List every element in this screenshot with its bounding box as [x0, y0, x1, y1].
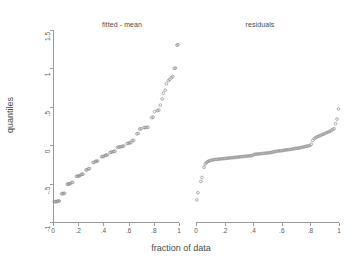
data-point: [196, 199, 199, 202]
data-point: [337, 108, 340, 111]
data-point: [200, 180, 203, 183]
data-point: [201, 176, 204, 179]
data-point: [197, 191, 200, 194]
data-point: [336, 118, 339, 121]
quantile-plot-figure: fitted - mean residuals quantiles fracti…: [0, 0, 362, 272]
data-point: [203, 166, 206, 169]
scatter-points-residuals: [0, 0, 362, 272]
data-point: [334, 122, 337, 125]
